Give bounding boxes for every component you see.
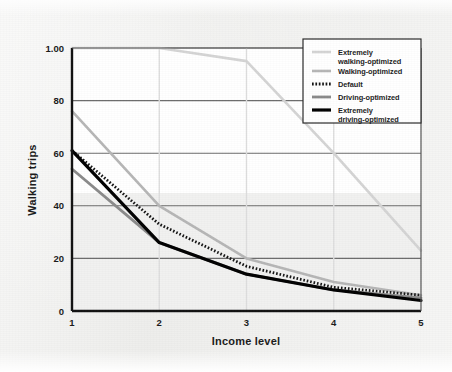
y-axis-title: Walking trips xyxy=(26,144,38,215)
y-tick-label-0: 0 xyxy=(59,306,64,317)
legend-label-0-line2[interactable]: walking-optimized xyxy=(337,57,402,66)
x-tick-label-4: 4 xyxy=(331,317,337,328)
x-tick-label-2: 2 xyxy=(157,317,162,328)
y-tick-label-20: 20 xyxy=(53,253,64,264)
x-tick-label-1: 1 xyxy=(69,317,75,328)
x-tick-label-5: 5 xyxy=(418,317,424,328)
figure-container: 0204060801.00 12345 Walking trips Income… xyxy=(0,0,452,372)
legend-label-3[interactable]: Driving-optimized xyxy=(338,93,400,102)
x-axis-title: Income level xyxy=(212,335,280,347)
chart-legend: Extremelywalking-optimizedWalking-optimi… xyxy=(303,39,421,124)
legend-label-4-line2[interactable]: driving-optimized xyxy=(338,115,399,124)
legend-label-1[interactable]: Walking-optimized xyxy=(338,67,403,76)
y-tick-label-100: 1.00 xyxy=(46,43,65,54)
y-tick-label-60: 60 xyxy=(53,148,64,159)
legend-label-4[interactable]: Extremely xyxy=(338,106,374,115)
line-chart: 0204060801.00 12345 Walking trips Income… xyxy=(0,0,452,372)
y-tick-label-40: 40 xyxy=(53,200,64,211)
y-tick-label-80: 80 xyxy=(53,95,64,106)
legend-label-2[interactable]: Default xyxy=(338,80,363,89)
x-axis-tick-labels: 12345 xyxy=(69,317,424,328)
x-tick-label-3: 3 xyxy=(244,317,249,328)
legend-label-0[interactable]: Extremely xyxy=(338,48,374,57)
y-axis-tick-labels: 0204060801.00 xyxy=(46,43,65,317)
